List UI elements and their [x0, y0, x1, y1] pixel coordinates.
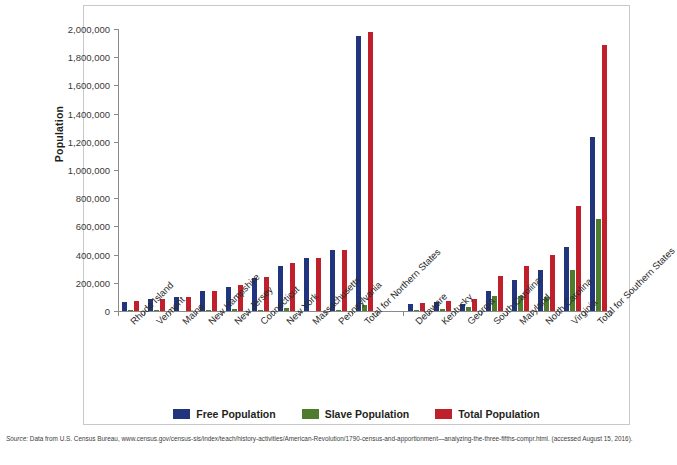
y-tick-label: 600,000: [76, 221, 110, 232]
legend-swatch-total-population: [435, 409, 452, 419]
y-tick-mark: [114, 29, 118, 30]
legend-item-total-population[interactable]: Total Population: [435, 408, 539, 420]
y-tick-mark: [114, 226, 118, 227]
y-tick-mark: [114, 311, 118, 312]
y-tick-mark: [114, 255, 118, 256]
y-tick-label: 400,000: [76, 249, 110, 260]
y-tick-label: 1,000,000: [68, 165, 110, 176]
legend-label: Slave Population: [325, 408, 410, 420]
x-category-label: Total for Southern States: [595, 245, 677, 327]
y-tick-label: 1,400,000: [68, 108, 110, 119]
y-tick-mark: [114, 142, 118, 143]
legend-swatch-slave-population: [302, 409, 319, 419]
y-tick-label: 0: [105, 306, 110, 317]
source-text: Data from U.S. Census Bureau, www.census…: [28, 435, 633, 442]
y-tick-mark: [114, 198, 118, 199]
y-tick-mark: [114, 57, 118, 58]
legend-item-slave-population[interactable]: Slave Population: [302, 408, 410, 420]
y-tick-mark: [114, 85, 118, 86]
y-tick-mark: [114, 283, 118, 284]
y-tick-mark: [114, 170, 118, 171]
y-tick-label: 1,200,000: [68, 136, 110, 147]
y-tick-label: 200,000: [76, 277, 110, 288]
legend-swatch-free-population: [173, 409, 190, 419]
legend-item-free-population[interactable]: Free Population: [173, 408, 275, 420]
chart-legend: Free PopulationSlave PopulationTotal Pop…: [83, 403, 630, 425]
y-tick-label: 1,800,000: [68, 52, 110, 63]
source-note: Source: Data from U.S. Census Bureau, ww…: [6, 433, 634, 444]
y-tick-label: 1,600,000: [68, 80, 110, 91]
y-tick-label: 2,000,000: [68, 24, 110, 35]
legend-label: Total Population: [458, 408, 539, 420]
legend-label: Free Population: [196, 408, 275, 420]
y-tick-label: 800,000: [76, 193, 110, 204]
source-label: Source:: [6, 435, 28, 442]
y-tick-mark: [114, 114, 118, 115]
